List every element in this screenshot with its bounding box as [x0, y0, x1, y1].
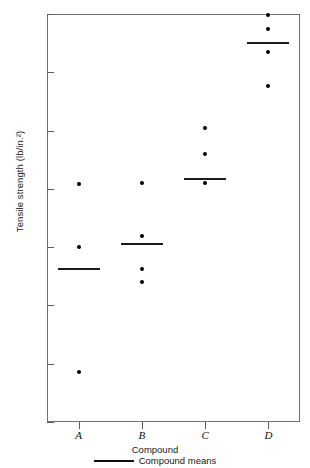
y-axis-tick — [47, 247, 54, 248]
y-axis-tick — [47, 189, 54, 190]
y-axis-title-text: Tensile strength (lb/in.²) — [14, 131, 25, 232]
plot-area — [47, 14, 300, 422]
y-axis-title: Tensile strength (lb/in.²) — [14, 107, 25, 257]
chart-figure: 29003000310032003300340035003600 Tensile… — [0, 0, 310, 468]
y-axis-tick — [47, 305, 54, 306]
x-axis-tick-label-a: A — [59, 429, 99, 441]
legend: Compound means — [0, 455, 310, 466]
legend-line-swatch — [94, 460, 134, 462]
data-point-b — [140, 181, 144, 185]
x-axis-tick-label-d: D — [248, 429, 288, 441]
x-axis-tick-label-c: C — [185, 429, 225, 441]
y-axis-tick — [47, 14, 54, 15]
data-point-a — [77, 245, 81, 249]
x-axis-tick-label-b: B — [122, 429, 162, 441]
data-point-a — [77, 182, 81, 186]
y-axis-tick — [47, 131, 54, 132]
x-axis-tick — [142, 422, 143, 429]
data-point-b — [140, 234, 144, 238]
x-axis-tick — [268, 422, 269, 429]
data-point-c — [203, 152, 207, 156]
mean-line-c — [184, 178, 226, 180]
data-point-c — [203, 126, 207, 130]
y-axis-tick — [47, 422, 54, 423]
data-point-b — [140, 280, 144, 284]
mean-line-a — [58, 268, 100, 270]
x-axis-title: Compound — [0, 444, 310, 455]
x-axis-title-text: Compound — [132, 444, 178, 455]
y-axis-tick — [47, 72, 54, 73]
mean-line-b — [121, 243, 163, 245]
y-axis-tick — [47, 364, 54, 365]
x-axis-tick — [205, 422, 206, 429]
legend-label: Compound means — [139, 455, 217, 466]
mean-line-d — [247, 42, 289, 44]
x-axis-tick — [79, 422, 80, 429]
data-point-a — [77, 370, 81, 374]
